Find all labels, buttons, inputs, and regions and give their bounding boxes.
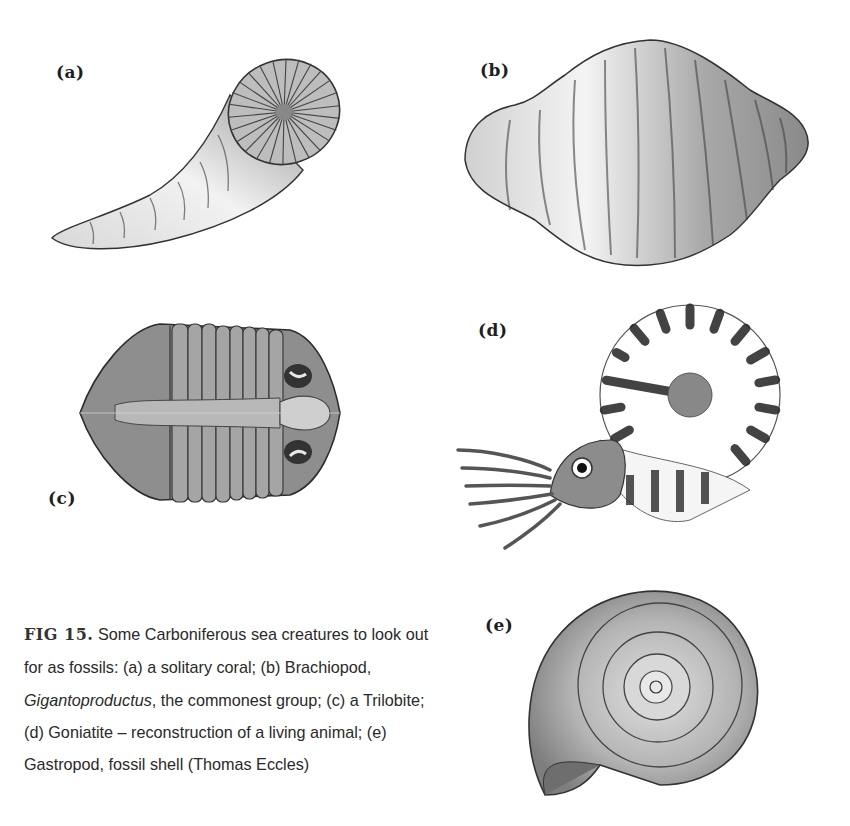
- brachiopod-illustration: [440, 30, 840, 280]
- caption-genus-italic: Gigantoproductus: [24, 691, 152, 709]
- panel-c-trilobite: (c): [40, 310, 370, 530]
- goniatite-illustration: [450, 290, 800, 560]
- figure-caption: FIG 15. Some Carboniferous sea creatures…: [24, 618, 444, 780]
- figure-number: FIG 15.: [24, 625, 93, 644]
- panel-b-brachiopod: (b): [440, 30, 840, 280]
- panel-e-gastropod: (e): [460, 570, 780, 820]
- panel-d-goniatite: (d): [450, 290, 800, 560]
- gastropod-illustration: [460, 570, 780, 820]
- panel-a-solitary-coral: (a): [0, 0, 425, 280]
- solitary-coral-illustration: [0, 0, 425, 280]
- trilobite-illustration: [40, 310, 370, 530]
